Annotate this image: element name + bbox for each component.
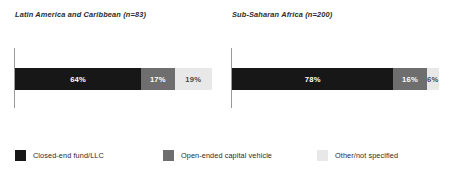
stacked-bar: 64% 17% 19% [15,68,212,90]
legend-item-label: Other/not specified [335,151,398,160]
legend-item-label: Open-ended capital vehicle [181,151,272,160]
legend-item-label: Closed-end fund/LLC [33,151,104,160]
bar-segment-open-ended-vehicle: 16% [393,68,426,90]
legend-swatch-icon [317,150,328,161]
legend-item-open-ended-vehicle: Open-ended capital vehicle [163,150,272,161]
chart-panels: Latin America and Caribbean (n=83) 64% 1… [0,0,454,135]
bar-segment-closed-end-fund: 64% [15,68,141,90]
panel-title: Latin America and Caribbean (n=83) [15,10,146,19]
legend-swatch-icon [163,150,174,161]
bar-segment-closed-end-fund: 78% [232,68,393,90]
bar-segment-other: 19% [175,68,212,90]
chart-panel-sub-saharan-africa: Sub-Saharan Africa (n=200) 78% 16% 6% [231,0,441,135]
chart-panel-latin-america: Latin America and Caribbean (n=83) 64% 1… [14,0,214,135]
legend-item-closed-end-fund: Closed-end fund/LLC [15,150,104,161]
stacked-bar: 78% 16% 6% [232,68,439,90]
panel-title: Sub-Saharan Africa (n=200) [232,10,332,19]
chart-legend: Closed-end fund/LLC Open-ended capital v… [15,150,439,170]
legend-swatch-icon [15,150,26,161]
legend-item-other: Other/not specified [317,150,398,161]
bar-segment-open-ended-vehicle: 17% [141,68,174,90]
bar-segment-other: 6% [427,68,439,90]
